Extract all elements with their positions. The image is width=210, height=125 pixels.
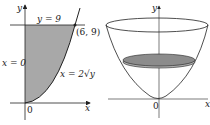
- shaded-region: [25, 25, 75, 103]
- origin-label: 0: [27, 105, 33, 115]
- left-line-label: x = 0: [2, 58, 26, 68]
- y-axis-label: y: [151, 3, 158, 13]
- right-figure: y x 0: [106, 3, 210, 118]
- x-axis-label: x: [85, 103, 90, 113]
- top-line-label: y = 9: [36, 14, 61, 24]
- origin-label: 0: [153, 101, 159, 111]
- left-figure: y x 0 y = 9 x = 0 x = 2√y (6, 9): [2, 3, 100, 120]
- y-axis-label: y: [16, 3, 23, 13]
- curve-label: x = 2√y: [60, 69, 96, 79]
- cross-section-disk: [123, 54, 195, 66]
- diagram-canvas: y x 0 y = 9 x = 0 x = 2√y (6, 9) y x 0: [0, 0, 210, 125]
- point-label: (6, 9): [76, 27, 100, 37]
- bowl-top-rim: [106, 18, 208, 32]
- x-axis-label: x: [205, 99, 210, 109]
